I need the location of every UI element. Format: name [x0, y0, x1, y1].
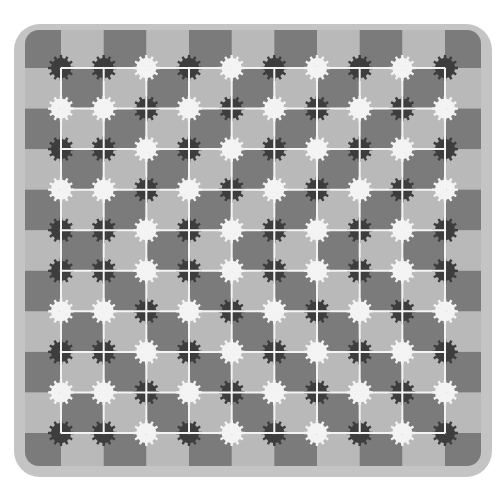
gear-checkerboard-illusion: [0, 0, 504, 483]
checkerboard-squares: [25, 30, 482, 467]
illusion-canvas: [0, 0, 504, 483]
